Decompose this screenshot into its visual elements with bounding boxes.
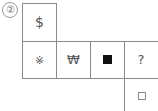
grid-line-top	[22, 3, 57, 4]
answer-empty-square	[138, 92, 146, 100]
row-cell-asterisk-mark: ※	[22, 54, 57, 68]
grid-line-col-4	[124, 41, 125, 111]
problem-number-label: ②	[2, 2, 18, 18]
row-cell-question-mark: ?	[124, 53, 158, 67]
top-cell-dollar-symbol: $	[22, 15, 57, 29]
row-cell-black-square	[103, 55, 112, 64]
row-cell-won-sign: ₩	[56, 53, 91, 67]
